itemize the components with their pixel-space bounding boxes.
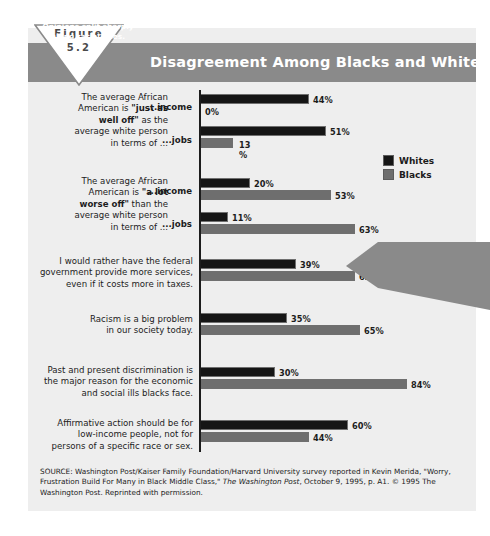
bar-value-blacks-1: 0%: [205, 107, 219, 117]
bar-value-whites-7: 30%: [279, 368, 299, 378]
label-line: The average African: [81, 176, 168, 186]
bar-value-blacks-7: 84%: [411, 380, 431, 390]
bar-value-blacks-8: 44%: [313, 433, 333, 443]
legend-item-whites: Whites: [383, 155, 434, 166]
bar-blacks-2: [201, 138, 233, 148]
bar-value-blacks-3: 53%: [335, 191, 355, 201]
label-line: American is: [78, 103, 131, 113]
label-line: as the: [139, 115, 168, 125]
legend-label-blacks: Blacks: [399, 170, 432, 180]
page-title: Disagreement Among Blacks and Whites: [150, 54, 470, 70]
label-line: and social ills blacks face.: [81, 388, 193, 398]
sub-label-income-1: ...income: [136, 102, 192, 112]
legend-swatch-blacks-icon: [383, 169, 394, 180]
category-label-q3: I would rather have the federal governme…: [28, 256, 193, 290]
label-line: persons of a specific race or sex.: [52, 441, 193, 451]
label-line: low-income people, not for: [78, 429, 193, 439]
legend-item-blacks: Blacks: [383, 169, 434, 180]
bar-whites-4: [201, 212, 228, 222]
bar-blacks-5: [201, 271, 355, 281]
bar-whites-6: [201, 313, 287, 323]
bar-value-whites-6: 35%: [291, 314, 311, 324]
label-line: I would rather have the federal: [59, 256, 193, 266]
bar-value-blacks-2: 13 %: [239, 141, 253, 160]
bar-whites-7: [201, 367, 275, 377]
bar-blacks-7: [201, 379, 407, 389]
bar-whites-8: [201, 420, 348, 430]
figure-label-number: 5.2: [46, 42, 112, 53]
category-label-q4: Racism is a big problem in our society t…: [28, 314, 193, 337]
category-label-q5: Past and present discrimination is the m…: [28, 365, 193, 399]
bar-value-whites-1: 44%: [313, 95, 333, 105]
bar-value-blacks-4: 63%: [359, 225, 379, 235]
bar-value-whites-8: 60%: [352, 421, 372, 431]
label-line: even if it costs more in taxes.: [66, 279, 193, 289]
category-label-q6: Affirmative action should be for low-inc…: [28, 418, 193, 452]
label-line: Past and present discrimination is: [48, 365, 193, 375]
label-line: in our society today.: [106, 325, 193, 335]
bar-value-whites-4: 11%: [232, 213, 252, 223]
label-line: than the: [129, 199, 168, 209]
callout-arrow: [346, 236, 490, 312]
bar-whites-3: [201, 178, 250, 188]
sub-label-jobs-2: ...jobs: [136, 219, 192, 229]
legend-label-whites: Whites: [399, 156, 434, 166]
source-note: SOURCE: Washington Post/Kaiser Family Fo…: [40, 467, 464, 498]
label-line: Racism is a big problem: [90, 314, 193, 324]
label-line: Affirmative action should be for: [57, 418, 193, 428]
bar-value-blacks-6: 65%: [364, 326, 384, 336]
label-line: The average African: [81, 92, 168, 102]
bar-blacks-8: [201, 432, 309, 442]
sub-label-jobs-1: ...jobs: [136, 135, 192, 145]
bar-whites-5: [201, 259, 296, 269]
chart-legend: Whites Blacks: [383, 155, 434, 183]
label-line: American is: [89, 187, 142, 197]
label-line-bold: well off": [99, 115, 139, 125]
callout-text: Opinions split sharply along racial line…: [36, 22, 140, 41]
figure-page: Disagreement Among Blacks and Whites Fig…: [0, 0, 490, 536]
bar-value-whites-2: 51%: [330, 127, 350, 137]
legend-swatch-whites-icon: [383, 155, 394, 166]
bar-whites-1: [201, 94, 309, 104]
bar-blacks-6: [201, 325, 360, 335]
bar-blacks-4: [201, 224, 355, 234]
label-line: government provide more services,: [40, 267, 193, 277]
source-italic-title: The Washington Post: [223, 477, 300, 486]
label-line: the major reason for the economic: [44, 376, 193, 386]
bar-whites-2: [201, 126, 326, 136]
bar-blacks-3: [201, 190, 331, 200]
sub-label-income-2: ...income: [136, 186, 192, 196]
label-line-bold: worse off": [80, 199, 129, 209]
bar-value-whites-5: 39%: [300, 260, 320, 270]
bar-value-whites-3: 20%: [254, 179, 274, 189]
